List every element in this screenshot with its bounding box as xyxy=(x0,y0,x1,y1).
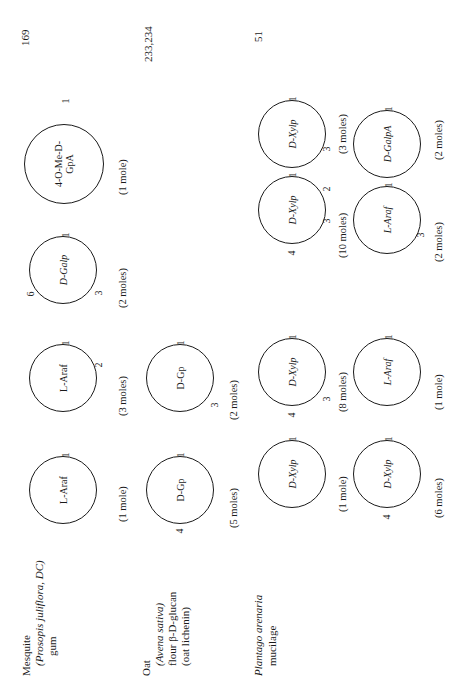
source-species: (Avena sativa) xyxy=(153,603,166,666)
source-material: gum xyxy=(46,636,59,656)
linkage-position: 1 xyxy=(61,341,71,346)
mole-count: (3 moles) xyxy=(117,376,128,416)
sugar-unit-label: D-Xylp xyxy=(287,358,298,387)
sugar-unit-label: D-Xylp xyxy=(382,460,393,489)
sugar-unit-label: L-Araf xyxy=(58,364,69,392)
sugar-unit-circle: L-Araf xyxy=(29,344,97,412)
sugar-unit-label: D-Xylp xyxy=(287,460,298,489)
linkage-position: 3 xyxy=(322,397,332,402)
label-line: GpA xyxy=(64,154,75,173)
linkage-position: 2 xyxy=(322,187,332,192)
mole-count: (2 moles) xyxy=(433,120,444,160)
mole-count: (1 mole) xyxy=(117,159,128,195)
mole-count: (1 mole) xyxy=(433,374,444,410)
sugar-unit-label: L-Araf xyxy=(382,207,393,234)
mole-count: (2 moles) xyxy=(228,380,239,420)
sugar-unit-circle: L-Araf xyxy=(353,186,421,254)
source-material: mucilage xyxy=(266,626,279,666)
linkage-position: 4 xyxy=(175,529,185,534)
sugar-unit-circle: D-Xylp xyxy=(258,440,326,508)
linkage-position: 1 xyxy=(176,341,186,346)
label-line: 4-O-Me-D- xyxy=(53,141,64,187)
linkage-position: 1 xyxy=(61,99,71,104)
linkage-position: 1 xyxy=(384,437,394,442)
linkage-position: 4 xyxy=(287,413,297,418)
sugar-unit-label: D-Gp xyxy=(175,367,186,390)
linkage-position: 6 xyxy=(26,292,36,297)
linkage-position: 1 xyxy=(288,437,298,442)
sugar-unit-label: D-Xylp xyxy=(287,196,298,225)
sugar-unit-label: D-Xylp xyxy=(287,120,298,149)
mole-count: (2 moles) xyxy=(433,222,444,262)
source-species: (Prosopis juliflora, DC) xyxy=(33,560,46,666)
sugar-unit-label: L-Araf xyxy=(58,476,69,504)
linkage-position: 3 xyxy=(416,233,426,238)
sugar-unit-label: D-Galp xyxy=(58,255,69,286)
sugar-unit-circle: D-Gp xyxy=(146,456,214,524)
sugar-unit-circle: L-Araf xyxy=(29,456,97,524)
mole-count: (1 mole) xyxy=(117,486,128,522)
sugar-unit-label: L-Araf xyxy=(382,359,393,386)
source-name: Oat xyxy=(140,660,153,676)
mole-count: (8 moles) xyxy=(337,372,348,412)
linkage-position: 4 xyxy=(287,251,297,256)
sugar-unit-label: D-GalpA xyxy=(382,126,393,163)
linkage-position: 1 xyxy=(384,183,394,188)
linkage-position: 1 xyxy=(384,335,394,340)
mole-count: (10 moles) xyxy=(337,213,348,258)
source-material: flour β-D-glucan xyxy=(166,592,179,666)
linkage-position: 1 xyxy=(61,453,71,458)
linkage-position: 1 xyxy=(384,107,394,112)
linkage-position: 1 xyxy=(288,173,298,178)
reference-number: 51 xyxy=(252,31,265,42)
linkage-position: 1 xyxy=(61,233,71,238)
mole-count: (1 mole) xyxy=(337,476,348,512)
source-name: Plantago arenaria xyxy=(252,595,265,676)
mole-count: (3 moles) xyxy=(337,114,348,154)
sugar-unit-label: D-Gp xyxy=(175,479,186,502)
linkage-position: 1 xyxy=(288,335,298,340)
linkage-position: 3 xyxy=(322,147,332,152)
mole-count: (2 moles) xyxy=(117,268,128,308)
sugar-unit-circle: D-Xylp xyxy=(258,176,326,244)
reference-number: 169 xyxy=(19,30,32,47)
reference-number: 233,234 xyxy=(142,26,155,62)
linkage-position: 1 xyxy=(176,453,186,458)
linkage-position: 1 xyxy=(288,97,298,102)
sugar-unit-circle: L-Araf xyxy=(353,338,421,406)
mole-count: (6 moles) xyxy=(433,478,444,518)
linkage-position: 4 xyxy=(382,515,392,520)
sugar-unit-circle: D-Xylp xyxy=(258,100,326,168)
sugar-unit-circle: D-Gp xyxy=(146,344,214,412)
sugar-unit-circle: D-Xylp xyxy=(258,338,326,406)
linkage-position: 3 xyxy=(94,291,104,296)
mole-count: (5 moles) xyxy=(228,488,239,528)
sugar-unit-label: 4-O-Me-D- GpA xyxy=(53,141,75,187)
sugar-unit-circle: D-Galp xyxy=(29,236,97,304)
sugar-unit-circle: 4-O-Me-D- GpA xyxy=(24,124,104,204)
sugar-unit-circle: D-Xylp xyxy=(353,440,421,508)
linkage-position: 3 xyxy=(210,403,220,408)
linkage-position: 3 xyxy=(322,219,332,224)
sugar-unit-circle: D-GalpA xyxy=(353,110,421,178)
linkage-position: 2 xyxy=(94,363,104,368)
source-name: Mesquite xyxy=(20,635,33,676)
source-alt-name: (oat lichenin) xyxy=(179,607,192,666)
